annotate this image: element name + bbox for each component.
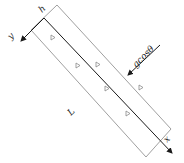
- x-axis-line: [44, 18, 172, 153]
- origin-label: h: [36, 3, 47, 14]
- marker-icon: [139, 85, 143, 90]
- slab-outline: [31, 5, 171, 157]
- slab-diagram: h y L x gcosθ: [0, 0, 184, 163]
- marker-icon: [105, 86, 109, 91]
- marker-icon: [76, 63, 80, 68]
- length-label: L: [65, 106, 77, 118]
- marker-icon: [51, 35, 55, 40]
- y-axis-line: [21, 18, 44, 41]
- gravity-label: gcosθ: [130, 43, 156, 69]
- marker-icon: [126, 111, 130, 116]
- flow-markers: [51, 35, 143, 116]
- y-axis-label: y: [5, 30, 17, 42]
- marker-icon: [96, 62, 100, 67]
